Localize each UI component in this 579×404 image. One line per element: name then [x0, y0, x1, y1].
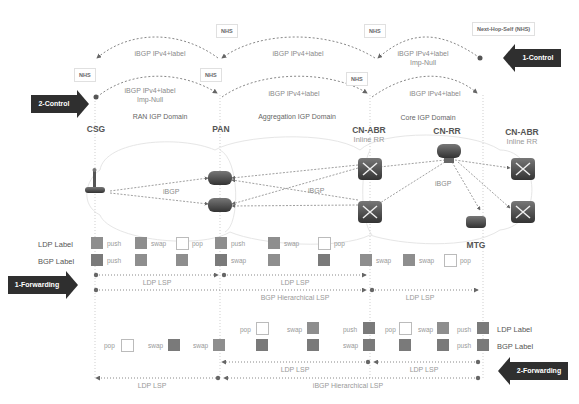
bgp-op: push [107, 257, 121, 264]
ldp-label-box-empty [176, 237, 189, 250]
bgp-label-box [363, 339, 375, 351]
domain-core: Core IGP Domain [400, 114, 455, 121]
bgp-label-row-title: BGP Label [497, 342, 533, 351]
ibgp-label: iBGP [163, 188, 179, 195]
node-mtg: MTG [467, 240, 486, 250]
ldp-label-box [268, 237, 280, 249]
bgp-label-box [403, 254, 415, 266]
session-label: iBGP IPv4+label [397, 50, 448, 57]
forwarding-2-arrow: 2-Forwarding [510, 362, 568, 380]
bgp-label-box [399, 339, 411, 351]
lsp-label: LDP LSP [138, 382, 167, 389]
bgp-op: swap [231, 257, 246, 264]
bgp-op: swap [376, 257, 391, 264]
session-label: iBGP IPv4+label [272, 50, 323, 57]
node-cn-rr: CN-RR [433, 126, 460, 136]
ibgp-label: iBGP [435, 180, 451, 187]
session-label: iBGP IPv4+label [268, 90, 319, 97]
mtg-router-icon [466, 216, 486, 228]
ldp-label-box-empty [256, 322, 269, 335]
domain-aggregation: Aggregation IGP Domain [258, 113, 336, 120]
session-label: iBGP IPv4+label [134, 50, 185, 57]
ldp-op: swap [287, 326, 302, 333]
diagram-canvas [0, 0, 579, 404]
ldp-op: push [231, 240, 245, 247]
ldp-op: pop [334, 240, 345, 247]
bgp-label-box-empty [444, 254, 457, 267]
forwarding-2-endpoints [216, 360, 480, 380]
bgp-label-row-title: BGP Label [38, 257, 74, 266]
bgp-label-box [307, 339, 319, 351]
ldp-op: push [343, 326, 357, 333]
forwarding-1-endpoints [94, 273, 374, 292]
ldp-label-box-empty [318, 237, 331, 250]
bgp-op: swap [193, 342, 208, 349]
domain-ran: RAN IGP Domain [133, 113, 188, 120]
ldp-label-row-title: LDP Label [38, 240, 73, 249]
lsp-label: LDP LSP [406, 294, 435, 301]
lsp-label: LDP LSP [281, 279, 310, 286]
control-1-arrow: 1-Control [515, 49, 561, 67]
ldp-label-box-empty [399, 322, 412, 335]
nhs-tag: NHS [200, 68, 222, 82]
ldp-label-box [437, 322, 449, 334]
lsp-label: LDP LSP [410, 366, 439, 373]
bgp-op: swap [343, 342, 358, 349]
bgp-label-box [437, 339, 449, 351]
session-label: iBGP IPv4+label [124, 87, 175, 94]
bgp-label-box [256, 339, 268, 351]
nhs-tag: NHS [364, 24, 386, 38]
ldp-op: pop [240, 326, 251, 333]
bgp-label-box [318, 254, 330, 266]
nhs-tag: NHS [346, 72, 368, 86]
bgp-label-box-empty [121, 339, 134, 352]
ldp-op: pop [385, 326, 396, 333]
bgp-op: push [457, 342, 471, 349]
hier-lsp-label: BGP Hierarchical LSP [261, 294, 330, 301]
ldp-op: swap [418, 326, 433, 333]
bgp-label-box [135, 254, 147, 266]
node-cn-abr-left-role: Inline RR [354, 135, 385, 144]
nhs-tag: NHS [74, 68, 96, 82]
bgp-label-box [268, 254, 280, 266]
node-cn-abr-left: CN-ABR [352, 125, 386, 135]
bgp-op: swap [148, 342, 163, 349]
node-pan: PAN [212, 124, 229, 134]
cn-abr-left-switch-icons [358, 158, 382, 223]
csg-router-icon [85, 168, 105, 193]
bgp-label-box [176, 254, 188, 266]
bgp-label-box [168, 339, 180, 351]
ldp-op: pop [192, 240, 203, 247]
session-sublabel: Imp-Null [137, 96, 163, 103]
node-guide-lines [95, 95, 483, 380]
ldp-label-box [477, 322, 489, 334]
hier-lsp-label: iBGP Hierarchical LSP [313, 382, 383, 389]
ldp-label-box [91, 237, 103, 249]
bgp-label-box [91, 254, 103, 266]
bgp-op: pop [104, 342, 115, 349]
bgp-op: swap [419, 257, 434, 264]
session-label: iBGP IPv4+label [409, 90, 460, 97]
nhs-tag: NHS [216, 24, 238, 38]
ldp-op: push [107, 240, 121, 247]
cn-abr-right-switch-icons [511, 158, 535, 223]
ldp-label-row-title: LDP Label [497, 325, 532, 334]
bgp-label-box [213, 339, 225, 351]
bgp-label-box [360, 254, 372, 266]
lsp-label: LDP LSP [281, 366, 310, 373]
ldp-op: push [457, 326, 471, 333]
ldp-label-box [363, 322, 375, 334]
bgp-label-box [215, 254, 227, 266]
ldp-op: swap [284, 240, 299, 247]
node-cn-abr-right-role: Inline RR [507, 137, 538, 146]
lsp-label: LDP LSP [143, 279, 172, 286]
ibgp-label: iBGP [308, 187, 324, 194]
ldp-op: swap [151, 240, 166, 247]
bgp-op: pop [460, 257, 471, 264]
ldp-label-box [215, 237, 227, 249]
node-cn-abr-right: CN-ABR [505, 127, 539, 137]
bgp-label-box [477, 339, 489, 351]
ldp-label-box [307, 322, 319, 334]
forwarding-1-arrow: 1-Forwarding [8, 276, 66, 294]
ldp-label-box [135, 237, 147, 249]
